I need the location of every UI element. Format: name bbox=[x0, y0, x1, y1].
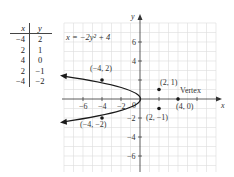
equation-label: x = −2y² + 4 bbox=[65, 32, 111, 42]
x-tick-label: −4 bbox=[98, 102, 107, 111]
point-2-neg1 bbox=[157, 107, 161, 111]
y-tick-label: −6 bbox=[127, 152, 136, 161]
x-axis-label: x bbox=[220, 101, 225, 110]
point-label: (2, 1) bbox=[160, 78, 178, 87]
y-tick-label: 6 bbox=[132, 38, 136, 47]
y-tick-label: −2 bbox=[127, 114, 136, 123]
point-neg4-2 bbox=[100, 78, 104, 82]
point-label: (−4, −2) bbox=[80, 120, 107, 129]
point-label: (2, −1) bbox=[146, 113, 168, 122]
graph: −6 −4 −2 0 6 4 −2 −4 −6 x y x = −2y² + 4… bbox=[0, 0, 234, 177]
point-vertex bbox=[176, 97, 180, 101]
curve-arrow-lower-icon bbox=[60, 119, 67, 125]
x-tick-label: −6 bbox=[79, 102, 88, 111]
vertex-label: Vertex bbox=[180, 86, 201, 95]
y-axis-arrow-icon bbox=[138, 14, 143, 20]
y-tick-label: 4 bbox=[132, 57, 136, 66]
y-tick-label: −4 bbox=[127, 133, 136, 142]
curve-arrow-upper-icon bbox=[60, 73, 67, 79]
y-axis-label: y bbox=[130, 12, 135, 21]
point-2-1 bbox=[157, 88, 161, 92]
point-label: (4, 0) bbox=[176, 102, 194, 111]
point-label: (−4, 2) bbox=[90, 64, 112, 73]
